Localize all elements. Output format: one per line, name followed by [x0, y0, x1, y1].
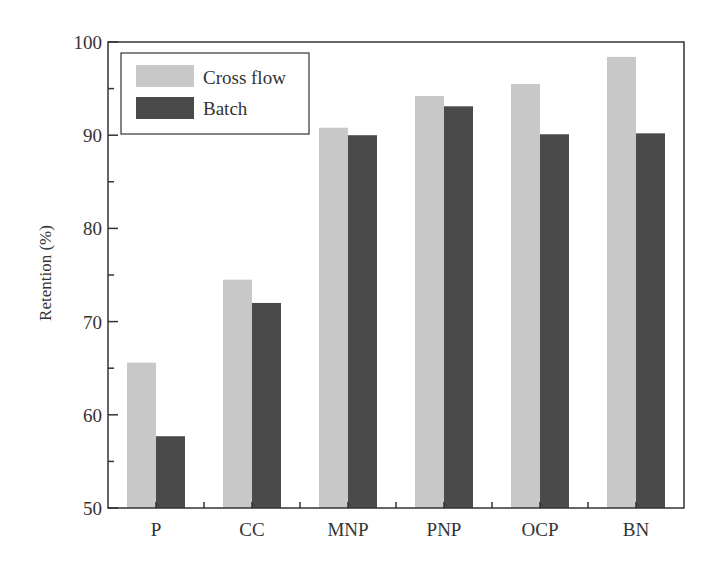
- x-tick-label: CC: [239, 519, 264, 540]
- y-tick-label: 80: [83, 218, 102, 239]
- bar-p-cross-flow: [127, 363, 156, 508]
- legend-label-cross-flow: Cross flow: [203, 67, 286, 88]
- bar-bn-batch: [636, 133, 665, 508]
- legend-swatch-batch: [136, 97, 194, 119]
- y-axis-title: Retention (%): [36, 225, 55, 321]
- bar-ocp-cross-flow: [511, 84, 540, 508]
- x-tick-label: MNP: [327, 519, 368, 540]
- bar-cc-batch: [252, 303, 281, 508]
- y-tick-label: 100: [74, 32, 103, 53]
- bar-p-batch: [156, 436, 185, 508]
- legend-label-batch: Batch: [203, 98, 248, 119]
- x-tick-label: PNP: [427, 519, 462, 540]
- y-tick-label: 90: [83, 125, 102, 146]
- y-tick-label: 70: [83, 312, 102, 333]
- bar-pnp-cross-flow: [415, 96, 444, 508]
- x-tick-label: BN: [623, 519, 650, 540]
- bar-ocp-batch: [540, 134, 569, 508]
- y-axis: 5060708090100: [74, 32, 119, 519]
- x-tick-label: P: [151, 519, 162, 540]
- bar-mnp-cross-flow: [319, 128, 348, 508]
- y-tick-label: 60: [83, 405, 102, 426]
- legend: Cross flow Batch: [121, 53, 309, 134]
- bar-cc-cross-flow: [223, 280, 252, 508]
- x-tick-label: OCP: [522, 519, 559, 540]
- bar-mnp-batch: [348, 135, 377, 508]
- legend-swatch-cross-flow: [136, 65, 194, 87]
- y-tick-label: 50: [83, 498, 102, 519]
- bar-bn-cross-flow: [607, 57, 636, 508]
- bar-pnp-batch: [444, 106, 473, 508]
- bar-chart: 5060708090100 PCCMNPPNPOCPBN Retention (…: [0, 0, 723, 563]
